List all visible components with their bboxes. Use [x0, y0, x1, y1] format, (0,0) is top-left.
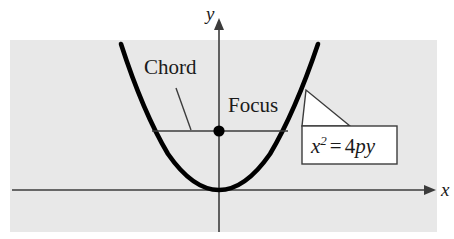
equation-exponent: 2: [320, 133, 327, 148]
equation-coefficient: 4: [345, 134, 356, 158]
diagram-canvas: [0, 0, 454, 239]
equation-callout-text: x2=4py: [311, 134, 375, 157]
equation-terms: py: [355, 134, 375, 158]
focus-label: Focus: [228, 95, 278, 116]
x-axis-label: x: [441, 180, 449, 199]
y-axis-label: y: [206, 4, 214, 23]
focus-point: [213, 125, 224, 136]
chord-label: Chord: [144, 57, 197, 78]
equation-variable: x: [311, 134, 320, 158]
equation-operator: =: [327, 134, 345, 158]
parabola-figure: Chord Focus y x x2=4py: [0, 0, 454, 239]
